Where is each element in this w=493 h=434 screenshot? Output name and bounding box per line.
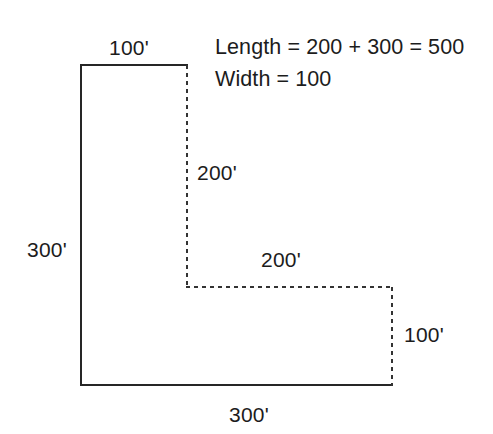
dimension-label-inner-vertical: 200' (197, 162, 237, 183)
dimension-label-right: 100' (404, 324, 444, 345)
dimension-label-left: 300' (27, 239, 67, 260)
dimension-label-top: 100' (109, 37, 149, 58)
annotation-width: Width = 100 (215, 68, 331, 90)
diagram-canvas: 100' 300' 200' 200' 100' 300' Length = 2… (0, 0, 493, 434)
dimension-label-inner-horizontal: 200' (261, 249, 301, 270)
solid-outline-path (81, 65, 392, 385)
l-shape-figure (0, 0, 493, 434)
annotation-length: Length = 200 + 300 = 500 (215, 36, 464, 58)
dimension-label-bottom: 300' (229, 404, 269, 425)
